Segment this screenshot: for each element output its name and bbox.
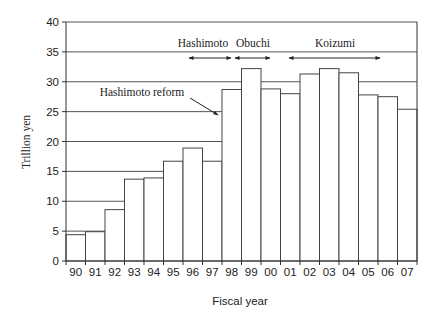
x-tick-label: 95 — [167, 266, 180, 278]
bar-93 — [125, 179, 145, 261]
bar-chart: 0510152025303540 90919293949596979899000… — [0, 0, 439, 320]
y-axis-ticks: 0510152025303540 — [46, 16, 66, 267]
x-tick-label: 04 — [342, 266, 355, 278]
annotation-koizumi: Koizumi — [315, 37, 355, 49]
bar-97 — [203, 161, 223, 261]
bar-98 — [222, 90, 242, 261]
bar-03 — [320, 69, 340, 261]
y-tick-label: 35 — [46, 46, 59, 58]
y-tick-label: 40 — [46, 16, 59, 28]
y-tick-label: 20 — [46, 136, 59, 148]
bar-92 — [105, 210, 125, 261]
x-tick-label: 00 — [264, 266, 277, 278]
x-tick-label: 01 — [284, 266, 297, 278]
y-tick-label: 15 — [46, 165, 59, 177]
y-axis-title: Trillion yen — [20, 115, 33, 169]
bar-07 — [398, 109, 418, 261]
bar-02 — [300, 74, 320, 261]
annotation-obuchi: Obuchi — [236, 37, 270, 49]
bar-96 — [183, 148, 203, 261]
y-tick-label: 5 — [53, 225, 59, 237]
x-tick-label: 06 — [381, 266, 394, 278]
x-tick-label: 91 — [89, 266, 102, 278]
x-tick-label: 03 — [323, 266, 336, 278]
bar-05 — [359, 95, 379, 261]
x-tick-label: 05 — [362, 266, 375, 278]
bar-91 — [86, 232, 106, 261]
bar-99 — [242, 69, 262, 261]
bar-01 — [281, 94, 301, 261]
x-tick-label: 93 — [128, 266, 141, 278]
x-tick-label: 02 — [303, 266, 316, 278]
bar-00 — [261, 89, 281, 261]
x-axis-title: Fiscal year — [212, 295, 268, 307]
bar-06 — [378, 97, 398, 261]
annotation-hashimoto: Hashimoto — [178, 37, 229, 49]
x-tick-label: 97 — [206, 266, 219, 278]
bar-90 — [66, 235, 86, 261]
x-tick-label: 92 — [108, 266, 121, 278]
x-tick-label: 90 — [69, 266, 82, 278]
y-tick-label: 25 — [46, 106, 59, 118]
y-tick-label: 0 — [53, 255, 59, 267]
x-tick-label: 07 — [401, 266, 414, 278]
bar-04 — [339, 73, 359, 261]
x-axis-ticks: 909192939495969798990001020304050607 — [66, 261, 417, 278]
annotation-hashimoto-reform: Hashimoto reform — [100, 86, 185, 98]
x-tick-label: 98 — [225, 266, 238, 278]
bar-94 — [144, 178, 164, 261]
x-tick-label: 96 — [186, 266, 199, 278]
y-tick-label: 10 — [46, 195, 59, 207]
hashimoto-reform-pointer-arrow — [190, 98, 218, 115]
x-tick-label: 94 — [147, 266, 160, 278]
bar-95 — [164, 161, 184, 261]
x-tick-label: 99 — [245, 266, 258, 278]
y-tick-label: 30 — [46, 76, 59, 88]
